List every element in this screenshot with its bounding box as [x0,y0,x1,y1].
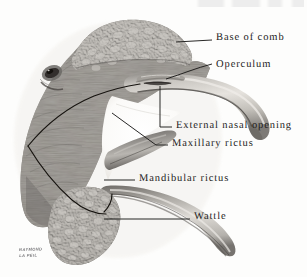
artist-signature-line-2: LA PEIL [19,252,42,259]
label-base-of-comb: Base of comb [216,33,285,44]
anatomical-plate: Base of comb Operculum External nasal op… [0,0,307,277]
label-maxillary-rictus: Maxillary rictus [172,139,254,150]
label-mandibular-rictus: Mandibular rictus [139,174,229,185]
artist-signature: RAYMOND LA PEIL [19,246,43,258]
label-operculum: Operculum [216,60,271,71]
label-wattle: Wattle [194,212,227,223]
label-external-nasal-opening: External nasal opening [176,121,292,132]
